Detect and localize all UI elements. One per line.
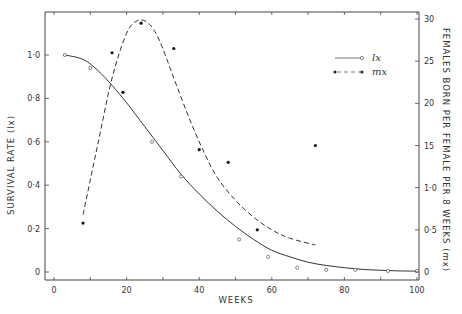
lx-curve	[65, 55, 417, 271]
x-tick-label: 20	[122, 286, 132, 295]
legend-lx-label: lx	[372, 52, 381, 63]
lx-data-point	[63, 53, 66, 56]
y-axis-right-title: FEMALES BORN PER FEMALE PER 8 WEEKS (mx)	[441, 28, 451, 272]
lx-data-point	[238, 238, 241, 241]
mx-line	[83, 20, 315, 245]
y2-tick-label: 20	[424, 99, 434, 108]
y-tick-label: 0·6	[27, 138, 40, 147]
y2-tick-label: 30	[424, 15, 434, 24]
mx-data-point	[227, 161, 230, 164]
life-table-chart: 02040608010000·20·40·60·81·000·51·015202…	[0, 0, 462, 314]
plot-frame	[45, 12, 419, 280]
x-tick-label: 80	[339, 286, 349, 295]
y2-tick-label: 15	[424, 142, 434, 151]
lx-line	[65, 55, 417, 271]
mx-data-point	[314, 144, 317, 147]
lx-data-point	[386, 269, 389, 272]
mx-data-point	[198, 148, 201, 151]
y-tick-label: 1·0	[27, 51, 40, 60]
axes-box	[45, 12, 419, 280]
lx-data-point	[179, 175, 182, 178]
legend-lx-marker	[360, 56, 363, 59]
legend-mx-marker-left	[334, 71, 337, 74]
y-tick-label: 0·4	[27, 181, 40, 190]
mx-points	[81, 22, 317, 232]
lx-data-point	[89, 66, 92, 69]
legend-mx-marker-right	[361, 71, 364, 74]
y2-tick-label: 0	[424, 268, 429, 277]
lx-data-point	[325, 268, 328, 271]
lx-data-point	[150, 140, 153, 143]
y2-tick-label: 1·0	[424, 184, 437, 193]
y2-tick-label: 0·5	[424, 226, 437, 235]
y-tick-label: 0	[35, 268, 40, 277]
x-axis-title: WEEKS	[218, 295, 253, 305]
lx-points	[63, 53, 418, 272]
x-tick-label: 0	[51, 286, 56, 295]
mx-data-point	[172, 47, 175, 50]
x-tick-label: 100	[409, 286, 424, 295]
y-axis-left-title: SURVIVAL RATE (lx)	[6, 115, 16, 215]
mx-data-point	[81, 221, 84, 224]
legend: lx mx	[334, 52, 388, 77]
legend-mx-label: mx	[372, 66, 387, 77]
lx-data-point	[354, 268, 357, 271]
y2-tick-label: 25	[424, 57, 434, 66]
lx-data-point	[296, 266, 299, 269]
x-tick-label: 60	[267, 286, 277, 295]
mx-curve	[83, 20, 315, 245]
y-tick-label: 0·2	[27, 225, 40, 234]
mx-data-point	[256, 228, 259, 231]
lx-data-point	[267, 255, 270, 258]
y-tick-label: 0·8	[27, 94, 40, 103]
mx-data-point	[121, 91, 124, 94]
mx-data-point	[140, 22, 143, 25]
x-tick-label: 40	[194, 286, 204, 295]
mx-data-point	[110, 51, 113, 54]
